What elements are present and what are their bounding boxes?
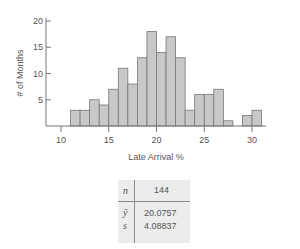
histogram-bar xyxy=(223,121,233,126)
histogram-bar xyxy=(80,110,90,126)
y-axis-label: # of Months xyxy=(15,49,25,96)
histogram-bar xyxy=(214,89,224,126)
n-label: n xyxy=(123,185,128,196)
n-value: 144 xyxy=(154,185,169,195)
histogram-plot: 51015201015202530 xyxy=(0,0,300,170)
histogram-bar xyxy=(71,110,81,126)
x-tick-label: 20 xyxy=(151,135,161,145)
histogram-bar xyxy=(90,100,100,126)
y-tick-label: 10 xyxy=(33,69,43,79)
histogram-bar xyxy=(204,95,214,127)
mean-label: ȳ xyxy=(123,207,127,218)
x-tick-label: 10 xyxy=(56,135,66,145)
histogram-bar xyxy=(252,110,262,126)
table-horizontal-divider xyxy=(118,201,190,202)
summary-stats-table: n 144 ȳ 20.0757 s 4.08837 xyxy=(118,180,190,243)
x-tick-label: 25 xyxy=(199,135,209,145)
histogram-bar xyxy=(166,37,176,126)
histogram-bar xyxy=(195,95,205,127)
x-tick-label: 30 xyxy=(247,135,257,145)
histogram-bar xyxy=(109,89,119,126)
table-vertical-divider xyxy=(134,180,135,243)
histogram-bar xyxy=(185,110,195,126)
histogram-bar xyxy=(176,58,186,126)
histogram-bar xyxy=(137,58,147,126)
x-tick-label: 15 xyxy=(104,135,114,145)
sd-label: s xyxy=(123,220,127,231)
histogram-bar xyxy=(99,105,109,126)
histogram-chart: 51015201015202530 # of Months Late Arriv… xyxy=(0,0,300,170)
y-tick-label: 15 xyxy=(33,42,43,52)
y-tick-label: 5 xyxy=(38,95,43,105)
sd-value: 4.08837 xyxy=(144,221,177,231)
histogram-bar xyxy=(147,32,157,127)
x-axis-label: Late Arrival % xyxy=(128,152,184,162)
mean-value: 20.0757 xyxy=(144,208,177,218)
histogram-bar xyxy=(118,68,128,126)
histogram-bar xyxy=(128,84,138,126)
histogram-bar xyxy=(242,116,252,127)
histogram-bar xyxy=(157,53,167,127)
y-tick-label: 20 xyxy=(33,16,43,26)
